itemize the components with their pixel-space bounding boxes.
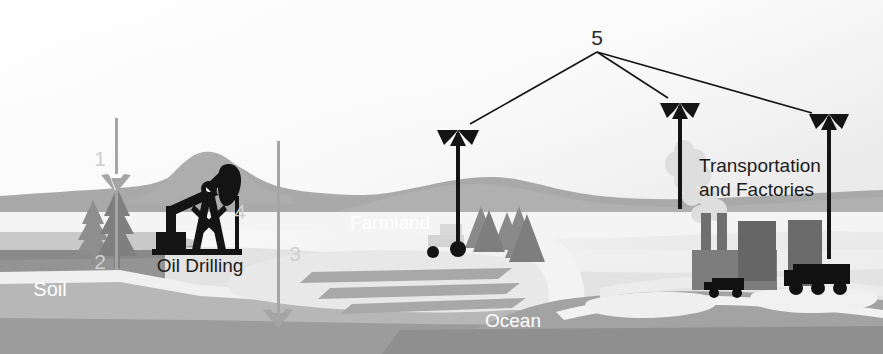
carbon-cycle-illustration: Soil Oil Drilling Farmland Ocean Transpo… xyxy=(0,0,883,354)
factory-tower-a xyxy=(738,221,776,281)
arrow-2-upward xyxy=(115,190,118,270)
truck-wheel xyxy=(709,288,719,298)
callout-number-4: 4 xyxy=(234,200,246,223)
truck-large xyxy=(784,264,850,295)
truck-wheel xyxy=(789,281,803,295)
label-farmland: Farmland xyxy=(350,212,430,233)
callout-number-2: 2 xyxy=(94,250,106,273)
factory-chimney-right xyxy=(717,213,727,253)
tractor-front-wheel xyxy=(427,246,439,258)
label-factories-line2: and Factories xyxy=(699,179,814,200)
label-transportation-line1: Transportation xyxy=(699,155,821,176)
label-soil: Soil xyxy=(33,278,66,300)
diagram-canvas: Soil Oil Drilling Farmland Ocean Transpo… xyxy=(0,0,883,354)
arrow-5a-shaft xyxy=(456,133,460,243)
truck-wheel xyxy=(732,288,742,298)
truck-trailer xyxy=(793,264,850,284)
tractor-rear-wheel xyxy=(450,241,466,257)
callout-number-1: 1 xyxy=(94,147,106,170)
smoke-puff xyxy=(674,140,694,160)
callout-number-3: 3 xyxy=(289,242,301,265)
truck-wheel xyxy=(833,281,847,295)
truck-wheel xyxy=(811,281,825,295)
truck-cab xyxy=(704,282,712,290)
label-ocean: Ocean xyxy=(485,310,541,331)
truck-cargo xyxy=(712,278,744,290)
arrow-5c-shaft xyxy=(827,117,831,259)
ocean-deep-band xyxy=(382,326,883,354)
factory-chimney-left xyxy=(701,213,711,253)
arrow-3-shaft xyxy=(277,141,280,321)
callout-number-5: 5 xyxy=(591,26,603,49)
arrow-2-shaft xyxy=(115,190,118,270)
label-oil-drilling: Oil Drilling xyxy=(157,255,244,276)
arrow-5b-shaft xyxy=(678,106,682,209)
